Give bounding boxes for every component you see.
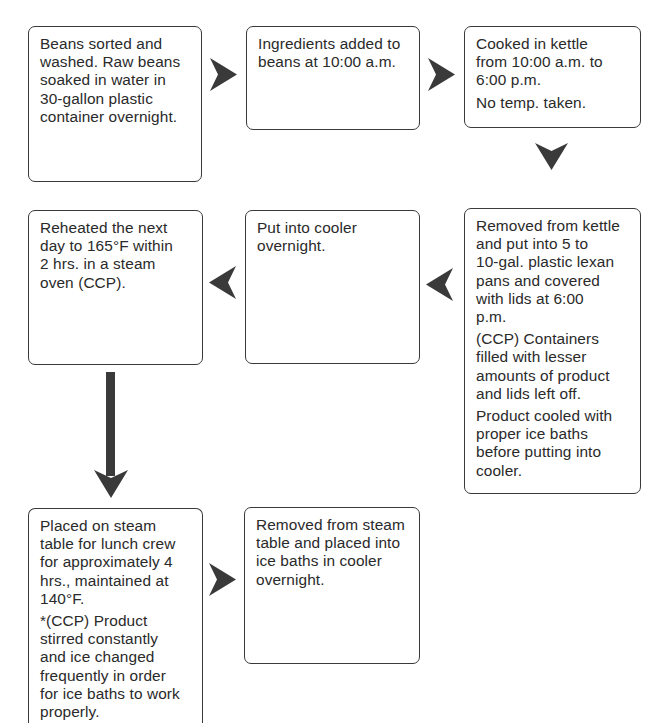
step-text: Ingredients added to beans at 10:00 a.m.	[258, 35, 409, 71]
arrow-down-icon	[535, 143, 568, 170]
arrow-left-icon	[426, 268, 453, 301]
step-text: Removed from kettle and put into 5 to 10…	[476, 217, 630, 326]
arrow-left-icon	[209, 266, 236, 299]
step-box-removed-from-steam-table: Removed from steam table and placed into…	[244, 507, 420, 664]
step-box-reheated: Reheated the next day to 165°F within 2 …	[28, 210, 203, 365]
arrow-right-icon	[209, 563, 236, 596]
step-text: Beans sorted and washed. Raw beans soake…	[40, 35, 191, 126]
step-text: Cooked in kettle from 10:00 a.m. to 6:00…	[476, 35, 630, 90]
step-box-beans-sorted: Beans sorted and washed. Raw beans soake…	[28, 26, 202, 182]
step-text: Put into cooler overnight.	[257, 219, 409, 255]
step-text: Placed on steam table for lunch crew for…	[40, 517, 192, 608]
step-box-ingredients-added: Ingredients added to beans at 10:00 a.m.	[246, 26, 420, 130]
arrow-right-icon	[210, 58, 237, 91]
step-note: Product cooled with proper ice baths bef…	[476, 407, 630, 480]
step-box-removed-from-kettle: Removed from kettle and put into 5 to 10…	[464, 208, 641, 494]
step-text: Reheated the next day to 165°F within 2 …	[40, 219, 192, 292]
step-box-put-into-cooler: Put into cooler overnight.	[245, 210, 420, 364]
step-box-placed-on-steam-table: Placed on steam table for lunch crew for…	[28, 508, 203, 723]
arrow-down-long-icon	[94, 372, 128, 498]
arrow-right-icon	[428, 58, 455, 91]
step-box-cooked-in-kettle: Cooked in kettle from 10:00 a.m. to 6:00…	[464, 26, 641, 128]
step-ccp-note: *(CCP) Product stirred constantly and ic…	[40, 612, 192, 721]
step-note: No temp. taken.	[476, 94, 630, 112]
step-text: Removed from steam table and placed into…	[256, 516, 409, 589]
step-ccp-note: (CCP) Containers filled with lesser amou…	[476, 330, 630, 403]
